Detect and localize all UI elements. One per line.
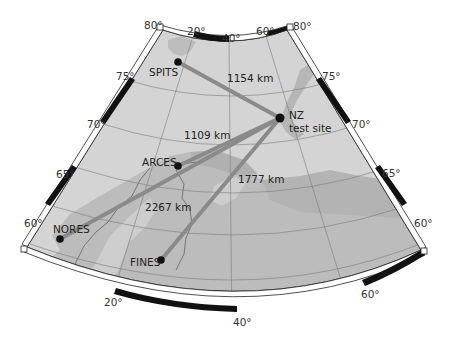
lat-tick-right-70: 70°: [352, 118, 371, 130]
distance-label-fines: 1777 km: [238, 173, 284, 185]
lon-tick-top-40: 40°: [222, 32, 241, 44]
lat-tick-right-60: 60°: [414, 217, 433, 229]
lon-tick-bottom-20: 20°: [104, 296, 123, 308]
station-fines: FINES: [130, 256, 165, 268]
lat-tick-left-80: 80°: [144, 19, 163, 31]
station-label: ARCES: [142, 156, 177, 168]
lon-tick-top-60: 60°: [256, 25, 275, 37]
source-marker-icon: [276, 114, 285, 123]
distance-label-spits: 1154 km: [227, 72, 273, 84]
lat-tick-left-70: 70°: [87, 118, 106, 130]
source-label-line2: test site: [289, 122, 331, 134]
lat-tick-left-65: 65°: [56, 168, 75, 180]
lat-tick-left-75: 75°: [116, 70, 135, 82]
distance-label-nores: 2267 km: [145, 201, 191, 213]
lon-tick-bottom-40: 40°: [233, 316, 252, 328]
map: 80° 75° 70° 65° 60° 80° 75° 70° 65° 60° …: [0, 0, 451, 343]
lat-tick-left-60: 60°: [24, 217, 43, 229]
lat-tick-right-80: 80°: [293, 20, 312, 32]
station-label: SPITS: [149, 66, 179, 78]
distance-label-arces: 1109 km: [184, 129, 230, 141]
source-label-line1: NZ: [289, 109, 304, 121]
station-label: NORES: [53, 223, 90, 235]
lat-tick-right-65: 65°: [382, 167, 401, 179]
station-label: FINES: [130, 256, 161, 268]
lon-tick-top-20: 20°: [187, 25, 206, 37]
station-arces: ARCES: [142, 156, 182, 170]
station-marker-icon: [56, 235, 64, 243]
lon-tick-bottom-60: 60°: [361, 288, 380, 300]
lat-tick-right-75: 75°: [322, 70, 341, 82]
station-marker-icon: [174, 58, 182, 66]
